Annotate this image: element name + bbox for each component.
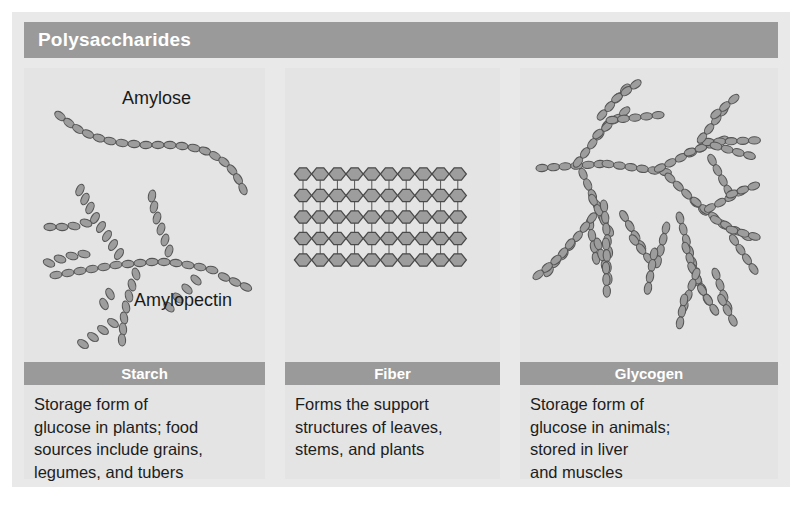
- amylose-chain: [53, 109, 249, 195]
- figure-header-bar: Polysaccharides: [24, 22, 778, 58]
- starch-molecule-svg: [24, 68, 265, 362]
- fiber-molecule-svg: [285, 68, 500, 362]
- panel-description-starch: Storage form of glucose in plants; food …: [24, 387, 265, 483]
- panel-label-fiber: Fiber: [374, 365, 411, 382]
- polysaccharides-figure: Polysaccharides: [12, 12, 790, 487]
- figure-title: Polysaccharides: [24, 29, 191, 51]
- panel-glycogen: Glycogen Storage form of glucose in anim…: [520, 68, 778, 479]
- panel-label-bar-glycogen: Glycogen: [520, 362, 778, 385]
- panel-label-bar-starch: Starch: [24, 362, 265, 385]
- panel-label-bar-fiber: Fiber: [285, 362, 500, 385]
- panel-fiber: Fiber Forms the support structures of le…: [285, 68, 500, 479]
- glycogen-diagram: [520, 68, 778, 362]
- panel-starch: Amylose Amylopectin Starch Storage form …: [24, 68, 265, 479]
- amylose-label: Amylose: [122, 88, 191, 109]
- amylopectin-chain: [42, 183, 253, 350]
- panel-description-glycogen: Storage form of glucose in animals; stor…: [520, 387, 778, 483]
- glycogen-molecule-svg: [520, 68, 778, 362]
- amylopectin-label: Amylopectin: [134, 290, 232, 311]
- panel-label-starch: Starch: [121, 365, 168, 382]
- fiber-diagram: [285, 68, 500, 362]
- panel-label-glycogen: Glycogen: [615, 365, 683, 382]
- starch-diagram: Amylose Amylopectin: [24, 68, 265, 362]
- panel-description-fiber: Forms the support structures of leaves, …: [285, 387, 500, 461]
